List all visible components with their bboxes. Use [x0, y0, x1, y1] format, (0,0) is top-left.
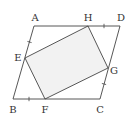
geometry-diagram: A H D E G B F C	[0, 0, 135, 118]
label-d: D	[117, 12, 125, 23]
label-a: A	[30, 12, 39, 23]
label-h: H	[84, 12, 93, 23]
label-b: B	[9, 104, 16, 115]
label-f: F	[42, 104, 49, 115]
tick-mark-gc	[102, 83, 106, 84]
diagram-svg: A H D E G B F C	[0, 0, 135, 118]
inner-quadrilateral-efgh	[25, 26, 108, 99]
label-g: G	[110, 65, 118, 76]
label-e: E	[14, 52, 21, 63]
label-c: C	[96, 104, 104, 115]
